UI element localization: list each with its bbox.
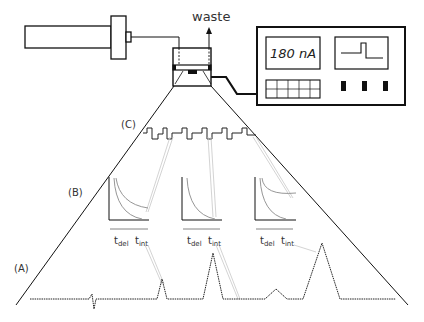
electrode [188,70,197,74]
knob-1 [341,81,346,91]
t-int-label: tint [281,235,294,248]
potentiostat: 180 nA [257,27,405,105]
cone-left [16,86,174,305]
decay-panel-1: tdel tint [109,177,149,248]
panel-b-label: (B) [68,187,83,198]
current-readout: 180 nA [270,46,316,61]
decay-panel-3: tdel tint [255,177,296,248]
waste-label: waste [192,9,230,24]
knob-2 [362,81,367,91]
t-del-label: tdel [114,235,129,248]
t-del-label: tdel [260,235,275,248]
pulse-waveform [143,128,256,139]
t-int-label: tint [135,235,148,248]
panel-a-label: (A) [14,263,29,274]
syringe-tip [126,32,131,42]
syringe-pump [25,16,131,59]
cone-right [211,86,408,305]
syringe-flange [111,16,126,59]
chromatogram-trace [30,243,396,309]
inlet-tubing [131,37,179,50]
arrow-up-icon [206,27,212,34]
signal-cable [211,77,257,94]
panel-c-label: (C) [121,119,136,130]
diagram-canvas: waste 180 nA (C) [0,0,424,322]
t-int-label: tint [208,235,221,248]
guide-lines [145,137,316,299]
knob-3 [383,81,388,91]
syringe-barrel [25,26,111,48]
flow-cell [173,48,211,86]
t-del-label: tdel [187,235,202,248]
